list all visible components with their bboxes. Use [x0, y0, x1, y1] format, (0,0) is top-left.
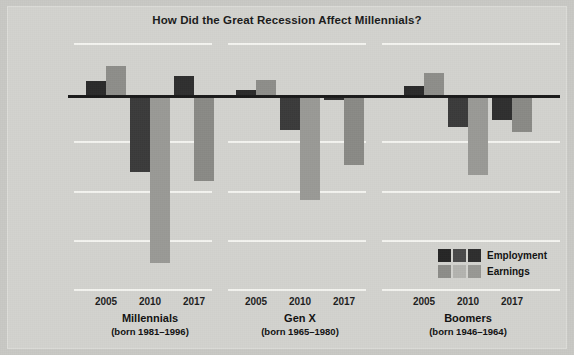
bar-millennials-2005-earnings: [106, 66, 126, 96]
legend-swatch-employment-2005: [438, 249, 451, 262]
x-axis-year-label: 2017: [324, 296, 364, 307]
bar-boomers-2005-earnings: [424, 73, 444, 96]
legend-swatch-earnings-2005: [438, 265, 451, 278]
bar-gen-x-2005-earnings: [256, 80, 276, 96]
x-axis-year-label: 2005: [86, 296, 126, 307]
legend-swatch-employment-2010: [453, 249, 466, 262]
zero-baseline: [68, 95, 560, 98]
bar-millennials-2005-employment: [86, 81, 106, 96]
legend: Employment Earnings: [438, 248, 547, 280]
gridline: [68, 289, 560, 291]
bar-millennials-2017-earnings: [194, 96, 214, 181]
chart-screenshot: How Did the Great Recession Affect Mille…: [0, 0, 574, 355]
x-axis-year-label: 2010: [280, 296, 320, 307]
legend-swatch-earnings-2017: [468, 265, 481, 278]
x-axis-year-label: 2005: [236, 296, 276, 307]
group-title-boomers: Boomers: [368, 312, 568, 324]
legend-row-earnings: Earnings: [438, 264, 547, 279]
legend-swatch-employment-2017: [468, 249, 481, 262]
x-axis-year-label: 2017: [492, 296, 532, 307]
x-axis-year-label: 2017: [174, 296, 214, 307]
legend-swatch-earnings-2010: [453, 265, 466, 278]
bar-boomers-2010-employment: [448, 96, 468, 127]
legend-row-employment: Employment: [438, 248, 547, 263]
legend-label-employment: Employment: [487, 250, 547, 261]
x-axis-year-label: 2010: [448, 296, 488, 307]
bar-boomers-2017-employment: [492, 96, 512, 120]
gridline: [68, 43, 560, 45]
bar-gen-x-2010-employment: [280, 96, 300, 130]
bar-millennials-2010-employment: [130, 96, 150, 172]
x-axis-year-label: 2010: [130, 296, 170, 307]
page-title: How Did the Great Recession Affect Mille…: [0, 14, 574, 26]
group-subtitle-boomers: (born 1946–1964): [368, 326, 568, 337]
bar-boomers-2017-earnings: [512, 96, 532, 132]
x-axis-year-label: 2005: [404, 296, 444, 307]
bar-gen-x-2010-earnings: [300, 96, 320, 200]
gridline: [68, 240, 560, 242]
legend-label-earnings: Earnings: [487, 266, 530, 277]
bar-gen-x-2017-earnings: [344, 96, 364, 165]
bar-boomers-2010-earnings: [468, 96, 488, 175]
bar-millennials-2010-earnings: [150, 96, 170, 263]
bar-millennials-2017-employment: [174, 76, 194, 96]
